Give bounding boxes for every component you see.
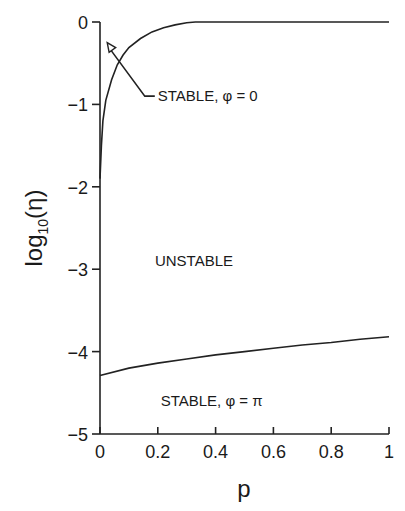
plot-area: 0−1−2−3−4−5 00.20.40.60.81 STABLE, φ = 0… [67,13,394,462]
annotations: STABLE, φ = 0UNSTABLESTABLE, φ = π [107,43,262,409]
annotation-stable-phi-0: STABLE, φ = 0 [158,87,258,104]
arrowhead-icon [107,43,115,53]
y-tick-label: 0 [78,13,88,33]
x-axis-title: p [237,475,250,502]
x-tick-label: 0.4 [203,442,228,462]
y-ticks: 0−1−2−3−4−5 [67,13,100,445]
y-tick-label: −4 [67,343,88,363]
y-axis-title: log10(η) [20,190,51,267]
x-tick-label: 0 [95,442,105,462]
y-tick-label: −1 [67,95,88,115]
x-tick-label: 1 [384,442,394,462]
annotation-unstable: UNSTABLE [155,252,233,269]
x-tick-label: 0.2 [145,442,170,462]
y-tick-label: −5 [67,425,88,445]
annotation-stable-phi-pi: STABLE, φ = π [161,392,263,409]
x-ticks: 00.20.40.60.81 [95,427,394,462]
x-tick-label: 0.8 [319,442,344,462]
curves [100,22,389,376]
leader-line [111,51,155,97]
y-tick-label: −2 [67,178,88,198]
lower-boundary-curve [100,337,389,376]
x-tick-label: 0.6 [261,442,286,462]
y-tick-label: −3 [67,260,88,280]
stability-chart: 0−1−2−3−4−5 00.20.40.60.81 STABLE, φ = 0… [0,0,405,511]
